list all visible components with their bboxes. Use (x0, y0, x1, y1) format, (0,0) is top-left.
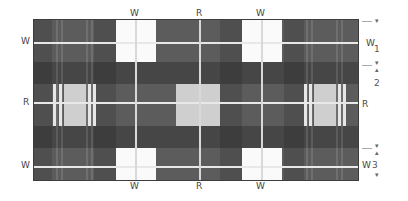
pale-stripe (93, 84, 96, 126)
dimension-tick (362, 21, 372, 22)
dark-band-row (34, 62, 358, 84)
guide-line-w-right (261, 20, 263, 180)
guide-line-w-top (34, 42, 358, 44)
light-block (176, 84, 220, 126)
top-label-w: W (256, 9, 265, 18)
pale-stripe (59, 84, 62, 126)
arrow-down-icon: ▾ (375, 172, 379, 179)
dimension-marker-2: 2 (374, 78, 380, 88)
pale-stripe (338, 84, 341, 126)
light-block (314, 84, 336, 126)
dark-band-column (220, 20, 242, 180)
guide-line-w-left (135, 20, 137, 180)
light-block (64, 84, 86, 126)
dimension-tick (362, 65, 372, 66)
faint-stripe (56, 20, 58, 180)
pale-stripe (304, 84, 307, 126)
top-label-w: W (130, 9, 139, 18)
dark-band-row (34, 126, 358, 148)
right-label-w: W (362, 161, 371, 170)
dark-band-column (94, 20, 116, 180)
arrow-down-icon: ▾ (375, 18, 379, 25)
right-label-r: R (362, 100, 368, 109)
left-label-r: R (23, 98, 29, 107)
dark-band-column (284, 20, 304, 180)
dimension-marker-1: 1 (374, 44, 380, 54)
pale-stripe (343, 84, 346, 126)
dark-band-column (34, 20, 52, 180)
bottom-label-w: W (130, 182, 139, 191)
dimension-marker-3: 3 (372, 160, 378, 170)
arrow-up-icon: ▴ (375, 150, 379, 157)
top-label-r: R (196, 9, 202, 18)
arrow-up-icon: ▴ (375, 67, 379, 74)
guide-line-w-bottom (34, 166, 358, 168)
bottom-label-r: R (196, 182, 202, 191)
guide-line-r-vertical (199, 20, 201, 180)
left-label-w: W (21, 161, 30, 170)
pale-stripe (88, 84, 91, 126)
left-label-w: W (21, 37, 30, 46)
guide-line-r (34, 102, 358, 104)
pale-stripe (53, 84, 56, 126)
bottom-label-w: W (256, 182, 265, 191)
dimension-tick (362, 148, 372, 149)
tartan-fabric (34, 20, 358, 180)
pale-stripe (309, 84, 312, 126)
